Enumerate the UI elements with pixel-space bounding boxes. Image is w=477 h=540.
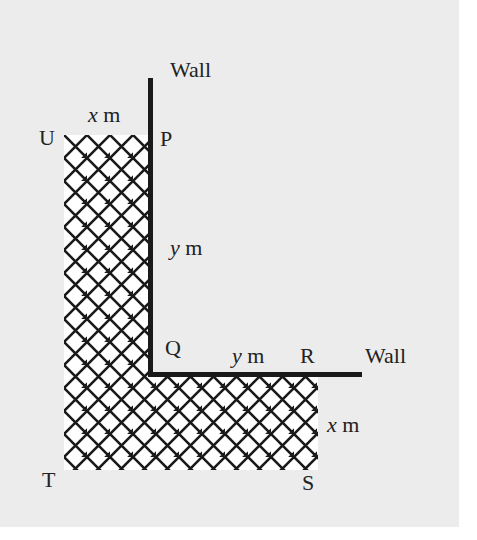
- up-dimension-label: x m: [88, 104, 120, 126]
- rs-dimension-label: x m: [327, 414, 359, 436]
- pq-dimension-label: y m: [170, 237, 202, 259]
- qr-dimension-label: y m: [232, 345, 264, 367]
- point-u-label: U: [39, 127, 55, 149]
- point-r-label: R: [300, 345, 315, 367]
- l-shaped-garden-diagram: [0, 0, 477, 540]
- point-p-label: P: [160, 128, 172, 150]
- point-s-label: S: [302, 472, 314, 494]
- wall-label-horizontal: Wall: [365, 345, 406, 367]
- point-q-label: Q: [165, 337, 181, 359]
- vertical-wall: [148, 78, 153, 377]
- wall-label-vertical: Wall: [170, 59, 211, 81]
- hatched-region: [64, 135, 318, 470]
- horizontal-wall: [148, 372, 362, 377]
- point-t-label: T: [42, 469, 55, 491]
